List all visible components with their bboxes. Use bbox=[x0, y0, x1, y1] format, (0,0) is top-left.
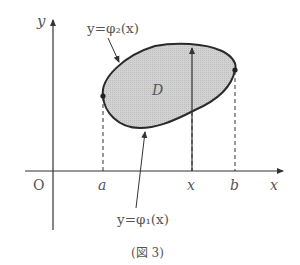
origin-label: O bbox=[33, 177, 44, 193]
upper-curve-label: y=φ₂(x) bbox=[86, 20, 139, 36]
tick-a-label: a bbox=[98, 177, 106, 193]
region-diagram: y y=φ₂(x) D O a x b x y=φ₁(x) (図 3) bbox=[0, 0, 300, 265]
upper-curve-pointer bbox=[108, 38, 119, 62]
x-axis-label: x bbox=[270, 177, 278, 193]
region-d bbox=[103, 44, 236, 128]
lower-curve-label: y=φ₁(x) bbox=[116, 211, 169, 227]
tick-b-label: b bbox=[230, 177, 239, 193]
figure-caption: (図 3) bbox=[131, 246, 164, 260]
point-b bbox=[232, 67, 237, 72]
point-a bbox=[100, 93, 105, 98]
region-label: D bbox=[151, 82, 163, 98]
lower-curve-pointer bbox=[136, 132, 145, 208]
tick-x-label: x bbox=[187, 177, 195, 193]
y-axis-label: y bbox=[36, 12, 46, 30]
